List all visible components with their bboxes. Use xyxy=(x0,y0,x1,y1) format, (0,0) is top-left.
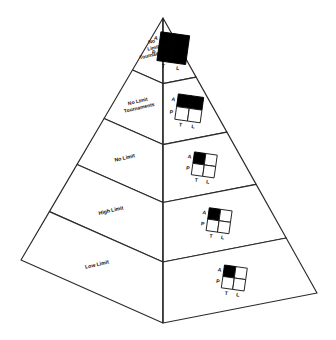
matrix-cell-P-L-empty xyxy=(217,221,230,234)
matrix-cell-A-L-filled xyxy=(173,34,189,50)
matrix-cell-A-T-filled xyxy=(223,265,236,278)
matrix-cell-A-T-filled xyxy=(177,94,191,108)
matrix-cell-A-T-filled xyxy=(208,208,221,221)
matrix-cell-A-L-empty xyxy=(219,209,232,222)
matrix-cell-A-L-empty xyxy=(234,267,247,280)
matrix-cell-P-T-empty xyxy=(191,163,204,176)
pyramid-diagram: NoLimitTournamentsNo LimitTournamentsNo … xyxy=(0,0,336,340)
matrix-cell-A-T-filled xyxy=(159,32,175,48)
matrix-cell-A-T-filled xyxy=(193,152,206,165)
matrix-cell-P-L-empty xyxy=(187,108,201,122)
matrix-cell-P-L-empty xyxy=(233,278,246,291)
matrix-cell-P-L-filled xyxy=(171,48,187,64)
matrix-cell-P-L-empty xyxy=(203,165,216,178)
matrix-cell-P-T-empty xyxy=(221,276,234,289)
matrix-cell-P-T-empty xyxy=(175,107,189,121)
matrix-cell-P-T-filled xyxy=(157,46,173,62)
pyramid-left-face-group xyxy=(21,18,163,323)
matrix-cell-A-L-empty xyxy=(204,154,217,167)
pyramid-svg: NoLimitTournamentsNo LimitTournamentsNo … xyxy=(0,0,336,340)
matrix-cell-P-T-empty xyxy=(206,219,219,232)
matrix-cell-A-L-filled xyxy=(189,96,203,110)
